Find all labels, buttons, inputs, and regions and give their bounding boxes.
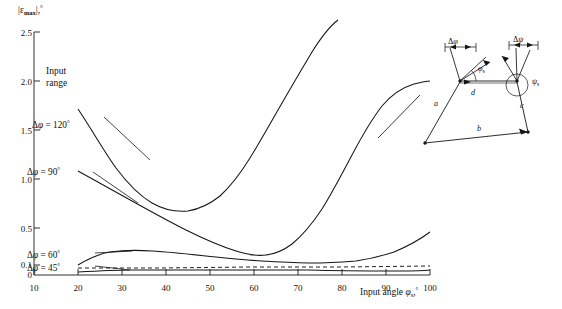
inset-delta-psi-arrow-left xyxy=(514,43,520,48)
inset-delta-psi-ray-1 xyxy=(516,48,517,81)
inset-delta-phi-ray-1 xyxy=(450,48,460,81)
inset-delta-phi-arrow-left xyxy=(450,45,456,50)
inset-joint-left-bottom xyxy=(423,141,426,144)
curve-delta-phi-120 xyxy=(78,20,338,211)
inset-delta-psi-arrow-right xyxy=(527,43,533,48)
inset-phi-s-ray xyxy=(460,57,486,81)
inset-link-b-arrow xyxy=(519,129,528,135)
curve-delta-phi-60 xyxy=(78,232,430,265)
leader-line-delta-phi-90 xyxy=(93,172,138,203)
inset-leader-line xyxy=(378,95,420,138)
inset-delta-phi-arrow-right xyxy=(465,45,471,50)
inset-joint-left-top xyxy=(458,79,461,82)
inset-link-a xyxy=(425,82,460,143)
chart-page: |εmax|,° Input angle φs,° 2.5 2.0 1.5 1.… xyxy=(0,0,562,309)
plot-canvas xyxy=(0,0,562,309)
leader-line-delta-phi-120 xyxy=(104,117,150,160)
inset-four-bar-linkage xyxy=(423,41,538,145)
curve-delta-phi-90 xyxy=(78,81,430,255)
inset-link-b xyxy=(425,132,528,143)
inset-delta-phi-ray-arrow xyxy=(483,60,490,66)
y-tick-marks xyxy=(34,32,40,265)
inset-link-d-arrow xyxy=(464,80,471,85)
curve-reference-dashed xyxy=(78,266,430,268)
inset-link-c xyxy=(517,82,528,132)
inset-psi-s-ray-arrow xyxy=(502,56,509,62)
inset-joint-right-top xyxy=(515,79,518,82)
